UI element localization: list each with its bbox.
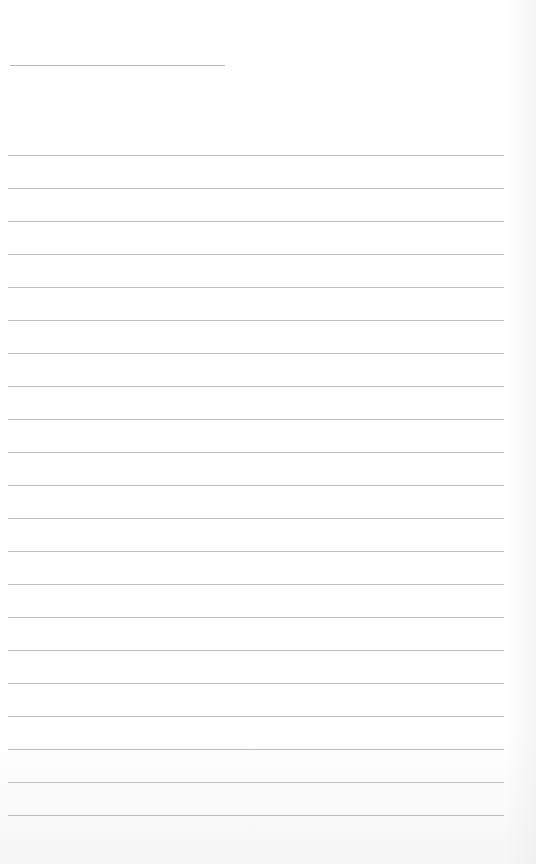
lined-paper-page [0, 0, 536, 864]
ruled-line [8, 188, 504, 189]
ruled-line [8, 155, 504, 156]
ruled-line [8, 551, 504, 552]
ruled-line [8, 782, 504, 783]
ruled-line [8, 485, 504, 486]
ruled-line [8, 353, 504, 354]
page-edge-shadow [506, 0, 536, 864]
ruled-line [8, 386, 504, 387]
ruled-line [8, 650, 504, 651]
ruled-line [8, 221, 504, 222]
ruled-line [8, 617, 504, 618]
ruled-line [8, 518, 504, 519]
ruled-line [8, 254, 504, 255]
ruled-line [8, 716, 504, 717]
ruled-line [8, 452, 504, 453]
ruled-line [8, 683, 504, 684]
ruled-line [8, 749, 504, 750]
ruled-line [8, 320, 504, 321]
ruled-line [8, 815, 504, 816]
header-name-line [10, 65, 225, 66]
ruled-line [8, 287, 504, 288]
ruled-line [8, 584, 504, 585]
ruled-line [8, 419, 504, 420]
